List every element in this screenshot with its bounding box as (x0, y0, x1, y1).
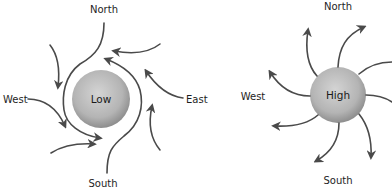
outflow-arrow-east (366, 95, 392, 102)
outflow-arrow-north-a (307, 30, 317, 76)
low-label-north: North (90, 4, 118, 15)
inflow-arrow-west (28, 99, 65, 126)
inflow-arrow-east (146, 71, 183, 98)
high-label: High (326, 89, 350, 101)
pressure-systems-diagram: Low North West East South High North Wes… (0, 0, 392, 192)
low-label: Low (91, 93, 112, 105)
outflow-arrow-south (316, 123, 339, 161)
high-label-south: South (323, 175, 352, 186)
high-label-west: West (241, 91, 266, 102)
inflow-arrow-northwest (50, 45, 59, 87)
low-label-west: West (3, 94, 28, 105)
low-pressure-system: Low North West East South (3, 4, 208, 189)
outflow-arrow-north-b (338, 27, 364, 67)
inflow-arrow-southeast (150, 106, 160, 150)
low-label-south: South (88, 178, 117, 189)
inflow-arrow-southwest (51, 144, 94, 153)
inflow-arrow-northeast (114, 44, 160, 53)
outflow-arrow-southeast (359, 114, 371, 157)
high-label-north: North (324, 1, 352, 12)
outflow-arrow-southwest (274, 115, 318, 126)
outflow-arrow-northeast (359, 62, 392, 74)
outflow-arrow-west (270, 72, 310, 96)
high-pressure-system: High North West South (241, 1, 392, 186)
low-label-east: East (186, 94, 208, 105)
